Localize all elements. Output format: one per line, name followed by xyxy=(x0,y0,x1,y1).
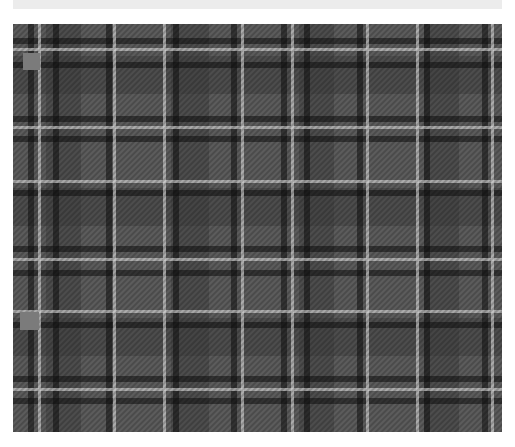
grey-square-patch xyxy=(20,312,39,330)
caption-bar xyxy=(13,0,502,9)
tartan-plaid-image xyxy=(13,24,502,432)
plaid-pattern xyxy=(13,24,502,432)
grey-square-patch xyxy=(23,53,40,70)
